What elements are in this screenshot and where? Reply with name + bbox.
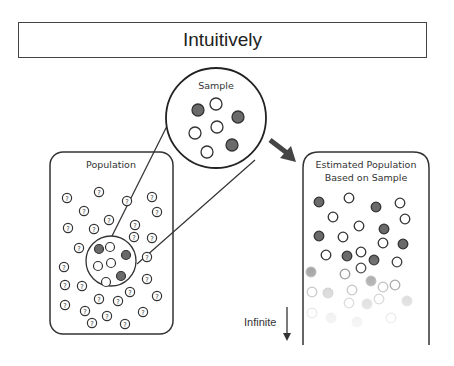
population-label: Population [86,159,136,170]
svg-text:Estimated Population: Estimated Population [316,159,417,170]
diagram: ? Population Sample E [0,0,454,366]
svg-text:Based on Sample: Based on Sample [325,172,408,183]
sample-label: Sample [198,80,234,91]
arrow-icon [270,140,296,162]
infinite-label: Infinite [244,316,276,328]
down-arrow-icon [283,307,291,341]
